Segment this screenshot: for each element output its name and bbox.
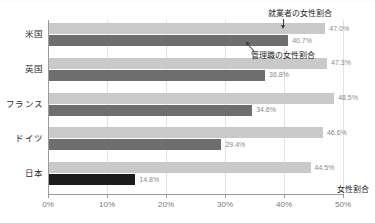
value-label-employed-ドイツ: 46.6% <box>327 129 347 136</box>
top-edge-artifact <box>0 0 375 3</box>
x-tick-label-10%: 10% <box>99 201 115 209</box>
y-axis-label-米国: 米国 <box>25 30 43 39</box>
chart-container: 47.0%40.7%47.3%36.8%48.5%34.6%46.6%29.4%… <box>0 0 375 223</box>
y-axis-label-英国: 英国 <box>25 65 43 74</box>
bar-group-ドイツ: 46.6%29.4% <box>48 124 343 159</box>
value-label-employed-フランス: 48.5% <box>338 94 358 101</box>
y-axis-label-フランス: フランス <box>6 100 43 109</box>
tick-mark-40% <box>284 194 285 198</box>
value-label-manager-フランス: 34.6% <box>256 106 276 113</box>
bar-group-フランス: 48.5%34.6% <box>48 90 343 125</box>
tick-mark-50% <box>343 194 344 198</box>
value-label-manager-ドイツ: 29.4% <box>225 141 245 148</box>
annotation-employed-arrowhead <box>281 25 285 29</box>
tick-mark-0% <box>48 194 49 198</box>
y-axis-label-ドイツ: ドイツ <box>15 134 43 143</box>
tick-mark-30% <box>225 194 226 198</box>
bar-manager-日本 <box>48 174 135 185</box>
bar-group-米国: 47.0%40.7% <box>48 20 343 55</box>
bar-employed-日本 <box>48 162 311 173</box>
x-tick-label-0%: 0% <box>42 201 54 209</box>
bar-manager-ドイツ <box>48 139 221 150</box>
value-label-employed-日本: 44.5% <box>315 164 335 171</box>
annotation-manager-share: 管理職の女性割合 <box>251 52 315 60</box>
bar-group-英国: 47.3%36.8% <box>48 55 343 90</box>
value-label-manager-日本: 14.8% <box>139 176 159 183</box>
y-axis-label-wrap-英国: 英国 <box>0 55 43 90</box>
x-tick-label-20%: 20% <box>158 201 174 209</box>
y-axis-label-wrap-フランス: フランス <box>0 90 43 125</box>
tick-mark-10% <box>107 194 108 198</box>
plot-area: 47.0%40.7%47.3%36.8%48.5%34.6%46.6%29.4%… <box>48 20 343 194</box>
value-label-employed-米国: 47.0% <box>329 25 349 32</box>
y-axis-line <box>48 20 49 195</box>
annotation-employed-share: 就業者の女性割合 <box>268 10 332 18</box>
bar-manager-英国 <box>48 70 265 81</box>
value-label-manager-米国: 40.7% <box>292 37 312 44</box>
y-axis-label-wrap-ドイツ: ドイツ <box>0 124 43 159</box>
x-axis-title: 女性割合 <box>337 186 369 194</box>
value-label-employed-英国: 47.3% <box>331 59 351 66</box>
gridline-50% <box>343 20 344 194</box>
x-tick-label-30%: 30% <box>217 201 233 209</box>
y-axis-label-wrap-日本: 日本 <box>0 159 43 194</box>
bar-employed-フランス <box>48 93 334 104</box>
value-label-manager-英国: 36.8% <box>269 71 289 78</box>
y-axis-label-日本: 日本 <box>25 169 43 178</box>
y-axis-label-wrap-米国: 米国 <box>0 20 43 55</box>
x-axis-line <box>48 194 344 195</box>
x-tick-label-40%: 40% <box>276 201 292 209</box>
tick-mark-20% <box>166 194 167 198</box>
x-tick-label-50%: 50% <box>335 201 351 209</box>
bar-employed-ドイツ <box>48 127 323 138</box>
bar-group-日本: 44.5%14.8% <box>48 159 343 194</box>
bar-manager-フランス <box>48 105 252 116</box>
bar-manager-米国 <box>48 35 288 46</box>
